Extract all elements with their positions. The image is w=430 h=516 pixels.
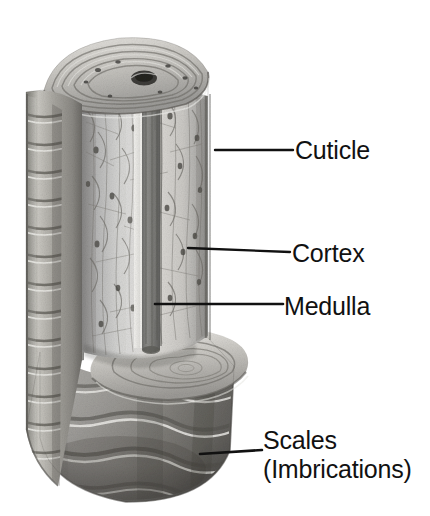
hair-shaft-drawing: [20, 38, 248, 504]
label-cuticle: Cuticle: [295, 136, 370, 165]
hair-structure-figure: Cuticle Cortex Medulla Scales(Imbricatio…: [0, 0, 430, 516]
label-scales-line2: (Imbrications): [263, 455, 412, 484]
label-scales-line1: Scales: [263, 426, 337, 454]
label-medulla: Medulla: [284, 292, 370, 321]
medulla-opening: [131, 71, 157, 86]
medulla-core: [134, 84, 161, 354]
label-scales: Scales(Imbrications): [263, 426, 412, 484]
label-cortex: Cortex: [292, 239, 364, 268]
